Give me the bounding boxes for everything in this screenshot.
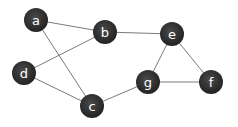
node-label: d xyxy=(20,66,28,81)
node-g: g xyxy=(136,70,160,94)
node-e: e xyxy=(160,22,184,46)
edge-d-b xyxy=(24,32,105,73)
node-f: f xyxy=(199,70,223,94)
graph-diagram: abdcegf xyxy=(0,0,238,127)
node-label: e xyxy=(168,27,176,42)
node-label: b xyxy=(101,25,109,40)
node-d: d xyxy=(12,61,36,85)
node-label: g xyxy=(144,75,152,90)
node-label: c xyxy=(88,99,95,114)
node-c: c xyxy=(80,94,104,118)
node-label: a xyxy=(32,13,40,28)
node-a: a xyxy=(24,8,48,32)
node-label: f xyxy=(209,75,214,90)
node-b: b xyxy=(93,20,117,44)
